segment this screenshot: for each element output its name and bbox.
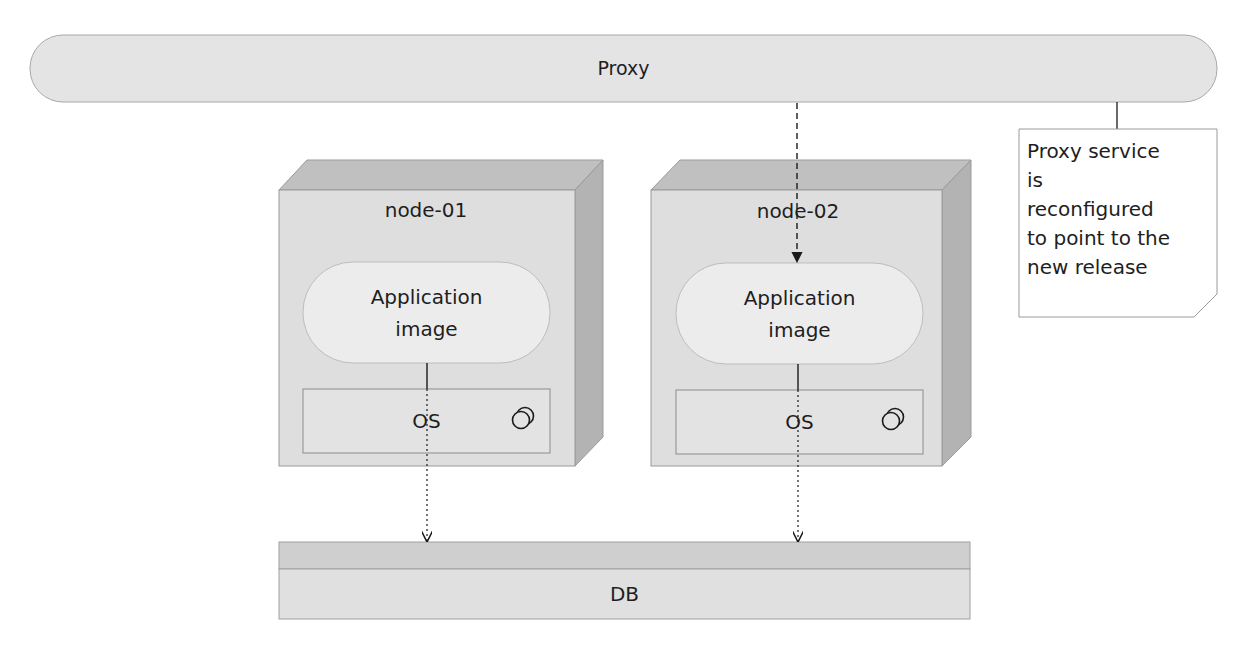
note-text: Proxy service is reconfigured to point t… — [1027, 137, 1212, 282]
node-01-title: node-01 — [279, 198, 573, 223]
note-line: reconfigured — [1027, 195, 1212, 224]
node-01-app-line2: image — [395, 313, 457, 345]
proxy-label: Proxy — [30, 35, 1217, 102]
note-line: is — [1027, 166, 1212, 195]
node-01-os-label: OS — [303, 389, 550, 453]
node-01-app-line1: Application — [371, 281, 483, 313]
note-line: to point to the — [1027, 224, 1212, 253]
node-01-app-label: Application image — [303, 262, 550, 363]
node-02-title: node-02 — [651, 199, 945, 224]
node-02-app-line1: Application — [744, 282, 856, 314]
node-02-app-line2: image — [768, 314, 830, 346]
node-02-app-label: Application image — [676, 263, 923, 364]
note-line: Proxy service — [1027, 137, 1212, 166]
node-02-os-label: OS — [676, 390, 923, 454]
db-label: DB — [279, 569, 970, 619]
note-line: new release — [1027, 253, 1212, 282]
